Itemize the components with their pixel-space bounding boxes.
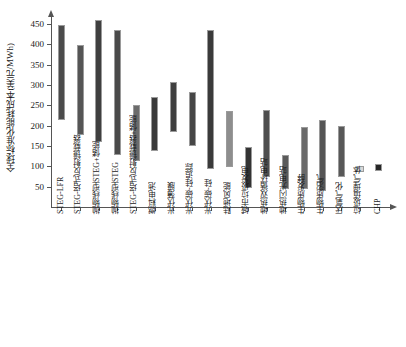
- y-tick-mark: [47, 126, 52, 127]
- range-bar: [58, 25, 65, 120]
- x-category-label-text: 垃圾填埋气体: [352, 166, 363, 214]
- x-category-label: STEG-塔式反射镜载器+储能: [128, 115, 139, 214]
- y-tick-mark: [47, 24, 52, 25]
- x-category-label: 生物质沼气: [315, 174, 326, 214]
- y-tick-label: 50: [18, 182, 44, 192]
- x-category-label-text: 城市垃圾发电: [240, 166, 251, 214]
- range-bar: [189, 92, 196, 146]
- x-category-label: 抛物线型STEG: [110, 162, 121, 214]
- x-category-label: 垃圾填埋气体: [352, 166, 363, 214]
- x-category-label-text: STEG-塔式反射镜载器: [72, 135, 83, 214]
- x-category-label-text: 光伏碳-硅: [203, 179, 214, 214]
- range-bar: [226, 111, 233, 167]
- y-tick-mark: [47, 146, 52, 147]
- y-axis-label-text: 全球标准化能耗成本(美元/MWh): [3, 43, 16, 172]
- y-tick-label: 100: [18, 161, 44, 171]
- x-category-label: 地热闪光电站: [278, 166, 289, 214]
- y-tick-label: 200: [18, 121, 44, 131]
- x-category-label-text: 生物质沼气: [315, 174, 326, 214]
- x-category-label: 光伏碳-硅: [203, 179, 214, 214]
- x-category-label: CHP: [373, 198, 382, 214]
- x-category-label-text: CHP: [373, 198, 382, 214]
- y-tick-mark: [47, 85, 52, 86]
- x-category-label: STEG-塔式反射镜载器: [72, 135, 83, 214]
- x-category-label-text: 陆地风能: [222, 182, 233, 214]
- x-category-label-text: 光伏碳-硅追踪: [184, 163, 195, 214]
- x-category-label: 地热双循环电站: [259, 158, 270, 214]
- range-bar: [207, 30, 214, 169]
- y-tick-mark: [47, 105, 52, 106]
- y-tick-label: 350: [18, 60, 44, 70]
- y-tick-label: 450: [18, 19, 44, 29]
- x-category-label-text: STEG-LFR: [56, 177, 65, 214]
- y-axis-label: 全球标准化能耗成本(美元/MWh): [0, 0, 18, 215]
- x-category-label: STEG-LFR: [56, 177, 65, 214]
- x-category-label: 抛物线型STEG+储能: [91, 141, 102, 214]
- y-tick-mark: [47, 65, 52, 66]
- range-bar: [170, 82, 177, 132]
- y-tick-label: 250: [18, 100, 44, 110]
- x-axis-arrow-icon: [390, 204, 397, 210]
- x-category-label: 陆地风能: [222, 182, 233, 214]
- x-category-label-text: 燃料电池: [147, 182, 158, 214]
- range-bar: [114, 30, 121, 154]
- range-bar: [338, 126, 345, 177]
- x-category-label-text: 光伏薄膜: [166, 182, 177, 214]
- y-tick-label: 300: [18, 80, 44, 90]
- y-tick-mark: [47, 166, 52, 167]
- y-tick-label: 150: [18, 141, 44, 151]
- x-category-label-text: 抛物线型STEG+储能: [91, 141, 102, 214]
- x-category-label: 厌氧气化: [334, 182, 345, 214]
- range-bar: [77, 45, 84, 135]
- x-category-label-text: 地热双循环电站: [259, 158, 270, 214]
- x-category-label: 光伏碳-硅追踪: [184, 163, 195, 214]
- chart-container: 全球标准化能耗成本(美元/MWh) 5010015020025030035040…: [0, 0, 406, 347]
- y-tick-mark: [47, 187, 52, 188]
- range-bar: [151, 97, 158, 151]
- range-bar: [375, 164, 382, 171]
- x-category-label: 生物质发酵: [296, 174, 307, 214]
- x-category-label-text: 地热闪光电站: [278, 166, 289, 214]
- x-category-label: 燃料电池: [147, 182, 158, 214]
- x-category-label-text: 抛物线型STEG: [110, 162, 121, 214]
- x-category-label-text: 生物质发酵: [296, 174, 307, 214]
- x-category-label: 城市垃圾发电: [240, 166, 251, 214]
- y-tick-label: 400: [18, 39, 44, 49]
- x-category-label-text: STEG-塔式反射镜载器+储能: [128, 115, 139, 214]
- range-bar: [95, 20, 102, 142]
- y-tick-mark: [47, 44, 52, 45]
- x-category-label: 光伏薄膜: [166, 182, 177, 214]
- x-category-label-text: 厌氧气化: [334, 182, 345, 214]
